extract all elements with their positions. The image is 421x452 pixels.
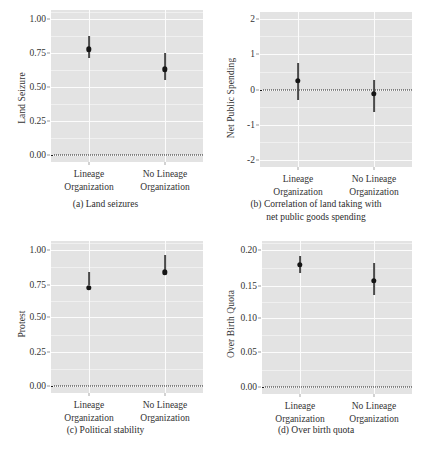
panel-d-point-2 bbox=[371, 278, 376, 283]
panel-d-gridline-0.05 bbox=[262, 352, 412, 353]
panel-c-tickmark-2 bbox=[47, 317, 50, 318]
panel-d-gridline-0.15 bbox=[262, 286, 412, 287]
panel-c-xlabel-no-lineage-line2: Organization bbox=[140, 412, 189, 425]
panel-b-caption: (b) Correlation of land taking with net … bbox=[211, 198, 421, 224]
panel-c-ytick-0.00: 0.00 bbox=[29, 381, 46, 391]
panel-b-point-2 bbox=[371, 91, 376, 96]
panel-d-xlabel-lineage-line1: Lineage bbox=[275, 400, 324, 413]
panel-d-ytick-0.15: 0.15 bbox=[240, 281, 257, 291]
panel-b-ytick-1: 1 bbox=[250, 49, 255, 59]
panel-b-ytick--2: -2 bbox=[247, 155, 255, 165]
panel-c-xlabel-lineage: Lineage Organization bbox=[64, 399, 113, 424]
panel-c-reference-line bbox=[51, 386, 203, 387]
panel-a-gridline-0.25 bbox=[51, 121, 203, 122]
panel-d-tickmark-3 bbox=[258, 286, 261, 287]
panel-d-xtick-2 bbox=[374, 394, 375, 397]
panel-b-tickmark-0 bbox=[256, 160, 259, 161]
panel-d-tickmark-2 bbox=[258, 318, 261, 319]
panel-d-tickmark-1 bbox=[258, 352, 261, 353]
panel-c-caption-text: (c) Political stability bbox=[67, 425, 145, 435]
panel-c-tickmark-3 bbox=[47, 285, 50, 286]
panel-a-y-ticklabels: 1.00 0.75 0.50 0.25 0.00 bbox=[18, 0, 46, 172]
panel-a-tickmark-1 bbox=[47, 121, 50, 122]
panel-a-ytick-0.50: 0.50 bbox=[29, 82, 46, 92]
panel-d-gridline-0.20 bbox=[262, 250, 412, 251]
panel-c-ytick-0.75: 0.75 bbox=[29, 280, 46, 290]
panel-a-ytick-1.00: 1.00 bbox=[29, 14, 46, 24]
panel-a-point-1 bbox=[86, 46, 91, 51]
panel-c-plot: Protest 1.00 0.75 0.50 0.25 0.00 bbox=[0, 226, 211, 398]
panel-d: Over Birth Quota 0.20 0.15 0.10 0.05 0.0… bbox=[211, 226, 421, 452]
panel-c-point-1 bbox=[86, 285, 91, 290]
panel-b-point-1 bbox=[295, 78, 300, 83]
panel-a-xlabel-no-lineage-line1: No Lineage bbox=[140, 168, 189, 181]
panel-c: Protest 1.00 0.75 0.50 0.25 0.00 bbox=[0, 226, 211, 452]
panel-b-xtick-2 bbox=[374, 167, 375, 170]
panel-a-tickmark-0 bbox=[47, 155, 50, 156]
panel-b-gridline--2 bbox=[260, 160, 412, 161]
panel-b-xlabel-lineage-line2: Organization bbox=[273, 186, 322, 199]
panel-b-tickmark-2 bbox=[256, 90, 259, 91]
panel-a-tickmark-2 bbox=[47, 87, 50, 88]
panel-b-xlabel-lineage-line1: Lineage bbox=[273, 173, 322, 186]
panel-d-xlabel-lineage: Lineage Organization bbox=[275, 400, 324, 425]
panel-b-ytick-0: 0 bbox=[250, 85, 255, 95]
figure-grid: Land Seizure 1.00 0.75 0.50 0.25 0.00 bbox=[0, 0, 421, 452]
panel-d-xlabel-no-lineage: No Lineage Organization bbox=[349, 400, 398, 425]
panel-c-xlabel-lineage-line1: Lineage bbox=[64, 399, 113, 412]
panel-a-reference-line bbox=[51, 155, 203, 156]
panel-b-gridline--1 bbox=[260, 125, 412, 126]
panel-b-plot: Net Public Spending 2 1 0 -1 -2 bbox=[211, 0, 421, 172]
panel-c-xlabel-lineage-line2: Organization bbox=[64, 412, 113, 425]
panel-a-vgrid-cat2 bbox=[165, 10, 166, 162]
panel-d-xlabel-no-lineage-line1: No Lineage bbox=[349, 400, 398, 413]
panel-c-xtick-1 bbox=[89, 393, 90, 396]
panel-c-ytick-0.25: 0.25 bbox=[29, 347, 46, 357]
panel-b-xlabel-lineage: Lineage Organization bbox=[273, 173, 322, 198]
panel-c-gridline-0.50 bbox=[51, 317, 203, 318]
panel-a-caption: (a) Land seizures bbox=[0, 198, 211, 211]
panel-b-gridline-2 bbox=[260, 19, 412, 20]
panel-c-plot-background bbox=[51, 241, 203, 393]
panel-b: Net Public Spending 2 1 0 -1 -2 bbox=[211, 0, 421, 226]
panel-b-ytick-2: 2 bbox=[250, 14, 255, 24]
panel-d-reference-line bbox=[262, 387, 412, 388]
panel-d-point-1 bbox=[297, 262, 302, 267]
panel-b-reference-line bbox=[260, 90, 412, 91]
panel-b-tickmark-1 bbox=[256, 125, 259, 126]
panel-c-gridline-1.00 bbox=[51, 250, 203, 251]
panel-d-caption: (d) Over birth quota bbox=[211, 424, 421, 437]
panel-a-xlabel-lineage-line2: Organization bbox=[64, 181, 113, 194]
panel-b-caption-line2: net public goods spending bbox=[266, 212, 365, 222]
panel-c-tickmark-0 bbox=[47, 386, 50, 387]
panel-d-plot-background bbox=[262, 241, 412, 394]
panel-a-ytick-0.00: 0.00 bbox=[29, 150, 46, 160]
panel-a-xlabel-no-lineage-line2: Organization bbox=[140, 181, 189, 194]
panel-c-caption: (c) Political stability bbox=[0, 424, 211, 437]
panel-b-x-labels: Lineage Organization No Lineage Organiza… bbox=[260, 169, 412, 199]
panel-c-point-2 bbox=[162, 269, 167, 274]
panel-d-caption-text: (d) Over birth quota bbox=[278, 425, 354, 435]
panel-a-gridline-1.00 bbox=[51, 19, 203, 20]
panel-c-xtick-2 bbox=[165, 393, 166, 396]
panel-c-tickmark-1 bbox=[47, 352, 50, 353]
panel-d-ytick-0.10: 0.10 bbox=[240, 313, 257, 323]
panel-c-gridline-0.75 bbox=[51, 285, 203, 286]
panel-a-point-2 bbox=[162, 66, 167, 71]
panel-a-plot: Land Seizure 1.00 0.75 0.50 0.25 0.00 bbox=[0, 0, 211, 172]
panel-d-x-labels: Lineage Organization No Lineage Organiza… bbox=[262, 396, 412, 426]
panel-a-vgrid-cat1 bbox=[89, 10, 90, 162]
panel-c-ytick-0.50: 0.50 bbox=[29, 312, 46, 322]
panel-a-ytick-0.75: 0.75 bbox=[29, 48, 46, 58]
panel-c-errorbar-1 bbox=[88, 272, 90, 286]
panel-b-caption-line1: (b) Correlation of land taking with bbox=[250, 199, 381, 209]
panel-d-gridline-0.10 bbox=[262, 318, 412, 319]
panel-a: Land Seizure 1.00 0.75 0.50 0.25 0.00 bbox=[0, 0, 211, 226]
panel-c-xlabel-no-lineage: No Lineage Organization bbox=[140, 399, 189, 424]
panel-b-xlabel-no-lineage: No Lineage Organization bbox=[349, 173, 398, 198]
panel-c-y-ticklabels: 1.00 0.75 0.50 0.25 0.00 bbox=[18, 226, 46, 398]
panel-d-plot: Over Birth Quota 0.20 0.15 0.10 0.05 0.0… bbox=[211, 226, 421, 398]
panel-a-xtick-2 bbox=[165, 162, 166, 165]
panel-a-xlabel-lineage-line1: Lineage bbox=[64, 168, 113, 181]
panel-a-tickmark-4 bbox=[47, 19, 50, 20]
